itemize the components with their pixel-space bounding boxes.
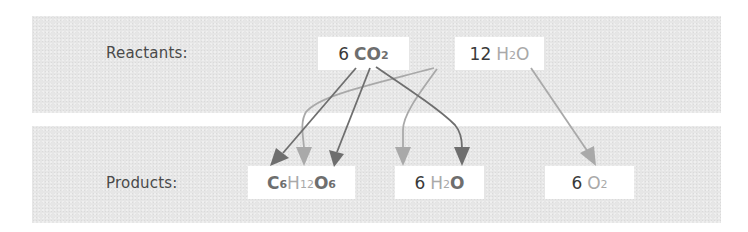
- arrow-h2o-o-to-o2: [531, 68, 596, 166]
- arrow-co2-o-to-glucose-o: [329, 68, 370, 167]
- atom-tracing-arrows: [0, 0, 748, 232]
- arrow-co2-o-to-water-o: [376, 67, 470, 166]
- arrow-co2-c-to-glucose-c: [270, 68, 356, 166]
